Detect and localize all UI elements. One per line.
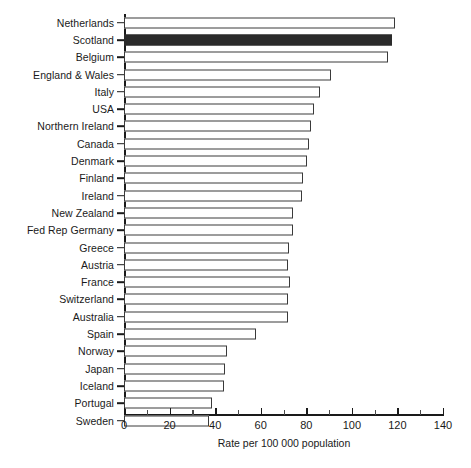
x-axis-tick-label: 20 (163, 419, 175, 431)
bar (124, 225, 293, 236)
bar (124, 69, 331, 80)
x-axis-major-tick (215, 408, 216, 415)
bar (124, 207, 293, 218)
bar-row: Japan (0, 360, 471, 377)
x-axis-title: Rate per 100 000 population (124, 437, 444, 449)
category-label: Denmark (71, 156, 114, 167)
category-label: England & Wales (33, 69, 114, 80)
bar (124, 104, 314, 115)
category-label: Italy (94, 86, 114, 97)
x-axis-tick-label: 60 (255, 419, 267, 431)
bar-row: Netherlands (0, 14, 471, 31)
x-axis-tick-label: 0 (121, 419, 127, 431)
bar (124, 398, 212, 409)
category-label: Fed Rep Germany (27, 225, 114, 236)
category-label: Canada (77, 138, 114, 149)
category-label: Japan (85, 363, 114, 374)
bar (124, 52, 388, 63)
y-axis-tick (117, 74, 124, 76)
y-axis-tick (117, 281, 124, 283)
category-label: Spain (87, 329, 114, 340)
bar-row: Italy (0, 83, 471, 100)
bar (124, 138, 309, 149)
y-axis-tick (117, 56, 124, 58)
y-axis-tick (117, 229, 124, 231)
y-axis-tick (117, 108, 124, 110)
y-axis-tick (117, 385, 124, 387)
x-axis-major-tick (124, 408, 125, 415)
bar-row: Australia (0, 308, 471, 325)
bar (124, 294, 288, 305)
category-label: Norway (78, 346, 114, 357)
category-label: Switzerland (59, 294, 114, 305)
category-label: Scotland (73, 34, 114, 45)
y-axis-tick (117, 402, 124, 404)
y-axis-tick (117, 299, 124, 301)
bar (124, 380, 224, 391)
plot-area: NetherlandsScotlandBelgiumEngland & Wale… (0, 0, 471, 468)
x-axis-major-tick (352, 408, 353, 415)
category-label: Iceland (80, 380, 114, 391)
x-axis-major-tick (261, 408, 262, 415)
bar-row: Canada (0, 135, 471, 152)
category-label: Sweden (76, 415, 114, 426)
bar (124, 277, 290, 288)
bar (124, 346, 227, 357)
y-axis-tick (117, 178, 124, 180)
bar-row: Scotland (0, 31, 471, 48)
category-label: Belgium (76, 52, 114, 63)
y-axis-tick (117, 316, 124, 318)
x-axis-minor-tick (238, 410, 239, 415)
y-axis-tick (117, 91, 124, 93)
category-label: Northern Ireland (37, 121, 114, 132)
category-label: Australia (73, 311, 114, 322)
x-axis-tick-label: 140 (434, 419, 452, 431)
category-label: Finland (79, 173, 114, 184)
bar-row: England & Wales (0, 66, 471, 83)
bar (124, 173, 303, 184)
y-axis-tick (117, 264, 124, 266)
bar (124, 329, 256, 340)
x-axis-minor-tick (420, 410, 421, 415)
bar-row: Denmark (0, 152, 471, 169)
y-axis-tick (117, 22, 124, 24)
bar-row: France (0, 274, 471, 291)
x-axis-minor-tick (192, 410, 193, 415)
x-axis-tick-label: 120 (388, 419, 406, 431)
x-axis-minor-tick (375, 410, 376, 415)
bar-row: Norway (0, 343, 471, 360)
bar (124, 190, 302, 201)
y-axis-tick (117, 39, 124, 41)
x-axis-minor-tick (284, 410, 285, 415)
x-axis-minor-tick (329, 410, 330, 415)
bar-row: USA (0, 101, 471, 118)
y-axis-tick (117, 212, 124, 214)
x-axis-major-tick (397, 408, 398, 415)
bar-row: Northern Ireland (0, 118, 471, 135)
category-label: New Zealand (52, 207, 114, 218)
bar-row: Belgium (0, 49, 471, 66)
x-axis-minor-tick (147, 410, 148, 415)
bar-row: Iceland (0, 377, 471, 394)
bar-row: Fed Rep Germany (0, 222, 471, 239)
bar-row: Ireland (0, 187, 471, 204)
bar-row: Switzerland (0, 291, 471, 308)
category-label: Ireland (82, 190, 114, 201)
bar-chart: NetherlandsScotlandBelgiumEngland & Wale… (0, 0, 471, 468)
y-axis-tick (117, 143, 124, 145)
y-axis-tick (117, 160, 124, 162)
x-axis-major-tick (443, 408, 444, 415)
category-label: Austria (81, 259, 114, 270)
bar-row: Austria (0, 256, 471, 273)
x-axis-major-tick (306, 408, 307, 415)
bar-row: New Zealand (0, 204, 471, 221)
y-axis-tick (117, 247, 124, 249)
bar (124, 259, 288, 270)
y-axis-tick (117, 351, 124, 353)
bar-row: Finland (0, 170, 471, 187)
category-label: Greece (79, 242, 114, 253)
bar-row: Portugal (0, 395, 471, 412)
x-axis-tick-label: 100 (343, 419, 361, 431)
category-label: Portugal (74, 398, 114, 409)
bar-row: Spain (0, 325, 471, 342)
